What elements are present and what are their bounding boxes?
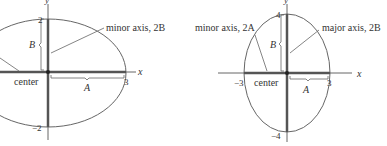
x-axis-label: x — [137, 66, 143, 77]
label-b: B — [29, 39, 35, 50]
b-brace — [39, 19, 44, 70]
ellipse-diagrams: y x 2 −2 3 B A center minor axis, 2B y x… — [0, 0, 387, 146]
tick-left: −3 — [234, 78, 244, 88]
leader-center — [0, 58, 19, 71]
label-minor-axis: minor axis, 2A — [195, 22, 255, 33]
leader-major-axis — [290, 30, 319, 53]
x-axis-label: x — [356, 68, 362, 79]
leader-minor-axis — [255, 35, 267, 71]
center-point — [46, 70, 50, 74]
label-a: A — [83, 82, 91, 93]
label-a: A — [302, 84, 310, 95]
label-b: B — [270, 39, 276, 50]
leader-minor-axis — [51, 28, 104, 53]
b-brace — [279, 15, 284, 71]
label-center: center — [14, 76, 39, 87]
figure-vertical-ellipse: y x 4 −4 3 −3 B A center minor axis, 2A … — [195, 0, 381, 142]
y-axis-label: y — [283, 0, 288, 5]
tick-right: 3 — [327, 78, 332, 88]
figure-horizontal-ellipse: y x 2 −2 3 B A center minor axis, 2B — [0, 0, 165, 140]
label-center: center — [254, 77, 279, 88]
tick-bottom: −4 — [271, 131, 281, 141]
tick-top: 2 — [38, 15, 43, 25]
tick-bottom: −2 — [32, 123, 42, 133]
tick-top: 4 — [276, 10, 281, 20]
label-minor-axis: minor axis, 2B — [106, 22, 165, 33]
a-brace — [290, 76, 328, 81]
a-brace — [51, 75, 124, 80]
y-axis-label: y — [44, 0, 49, 5]
label-major-axis: major axis, 2B — [322, 22, 381, 33]
center-point — [285, 71, 289, 75]
tick-right: 3 — [124, 77, 129, 87]
